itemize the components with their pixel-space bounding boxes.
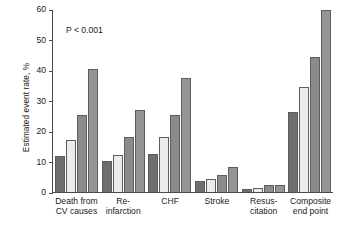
bar[interactable]: [321, 10, 331, 192]
y-tick-mark: [49, 162, 53, 163]
bar[interactable]: [299, 87, 309, 192]
y-tick-mark: [49, 132, 53, 133]
x-axis-label: Composite end point: [287, 196, 334, 217]
bar[interactable]: [242, 189, 252, 192]
bar[interactable]: [288, 112, 298, 192]
bar-group: [53, 10, 100, 192]
x-axis-label: Re- infarction: [100, 196, 147, 217]
bar-group: [286, 10, 333, 192]
bar[interactable]: [181, 78, 191, 192]
bar[interactable]: [66, 140, 76, 192]
y-tick-mark: [49, 101, 53, 102]
y-tick-label: 50: [36, 35, 46, 46]
bar[interactable]: [77, 115, 87, 192]
x-axis-label: Resus- citation: [240, 196, 287, 217]
bar[interactable]: [195, 181, 205, 192]
bar[interactable]: [217, 175, 227, 192]
bar[interactable]: [264, 185, 274, 192]
x-axis-label: Death from CV causes: [53, 196, 100, 217]
x-axis-label: CHF: [147, 196, 194, 217]
y-tick-mark: [49, 193, 53, 194]
bar-chart-figure: Estimated event rate, % P < 0.001 010203…: [0, 0, 339, 227]
y-axis-title: Estimated event rate, %: [22, 23, 31, 193]
y-tick-label: 60: [36, 4, 46, 15]
bar[interactable]: [228, 167, 238, 192]
x-axis-labels: Death from CV causesRe- infarctionCHFStr…: [53, 196, 334, 217]
y-tick-mark: [49, 10, 53, 11]
bar[interactable]: [113, 155, 123, 193]
bar[interactable]: [148, 154, 158, 192]
bar-group: [193, 10, 240, 192]
bar-groups: [53, 10, 333, 192]
bar-group: [240, 10, 287, 192]
y-tick-mark: [49, 71, 53, 72]
x-axis-label: Stroke: [193, 196, 240, 217]
bar[interactable]: [253, 188, 263, 192]
y-tick-mark: [49, 40, 53, 41]
bar[interactable]: [310, 57, 320, 192]
bar[interactable]: [206, 179, 216, 192]
bar[interactable]: [55, 156, 65, 192]
bar[interactable]: [159, 137, 169, 192]
bar[interactable]: [135, 110, 145, 192]
y-tick-label: 10: [36, 157, 46, 168]
bar[interactable]: [88, 69, 98, 192]
y-tick-label: 0: [41, 187, 46, 198]
bar[interactable]: [170, 115, 180, 192]
bar[interactable]: [124, 137, 134, 193]
y-tick-label: 40: [36, 65, 46, 76]
y-tick-label: 20: [36, 126, 46, 137]
bar-group: [146, 10, 193, 192]
plot-area: 0102030405060: [52, 10, 333, 193]
x-axis-line: [52, 192, 333, 193]
bar[interactable]: [102, 161, 112, 192]
bar[interactable]: [275, 185, 285, 192]
y-tick-label: 30: [36, 96, 46, 107]
bar-group: [100, 10, 147, 192]
